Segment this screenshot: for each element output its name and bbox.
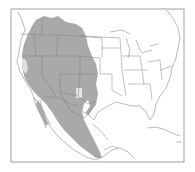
range-map bbox=[0, 0, 195, 172]
map-canvas bbox=[0, 0, 195, 172]
